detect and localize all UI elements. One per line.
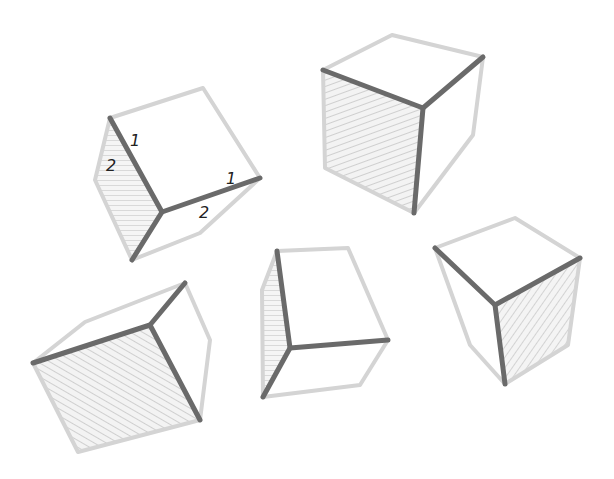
- cube-4: [262, 248, 388, 397]
- cube-5: [435, 218, 580, 384]
- label-2-bottom: 2: [199, 203, 209, 222]
- cube-2: [323, 35, 483, 213]
- cube-3: [33, 283, 210, 452]
- label-1-right: 1: [226, 169, 236, 188]
- label-1-top: 1: [130, 131, 140, 150]
- label-2-left: 2: [106, 156, 116, 175]
- cube-1: 1 2 1 2: [95, 88, 260, 260]
- cubes-drawing: 1 2 1 2: [0, 0, 614, 479]
